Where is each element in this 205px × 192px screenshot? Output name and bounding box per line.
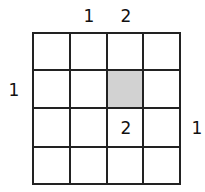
top-clue-col3: 2 [116,6,136,26]
cell-number-r3-c3: 2 [116,118,136,138]
grid-line [32,146,181,148]
left-clue-row2: 1 [4,80,24,100]
right-clue-row3: 1 [187,118,205,138]
grid-line [32,107,181,109]
grid-line [32,69,181,71]
top-clue-col2: 1 [79,6,99,26]
